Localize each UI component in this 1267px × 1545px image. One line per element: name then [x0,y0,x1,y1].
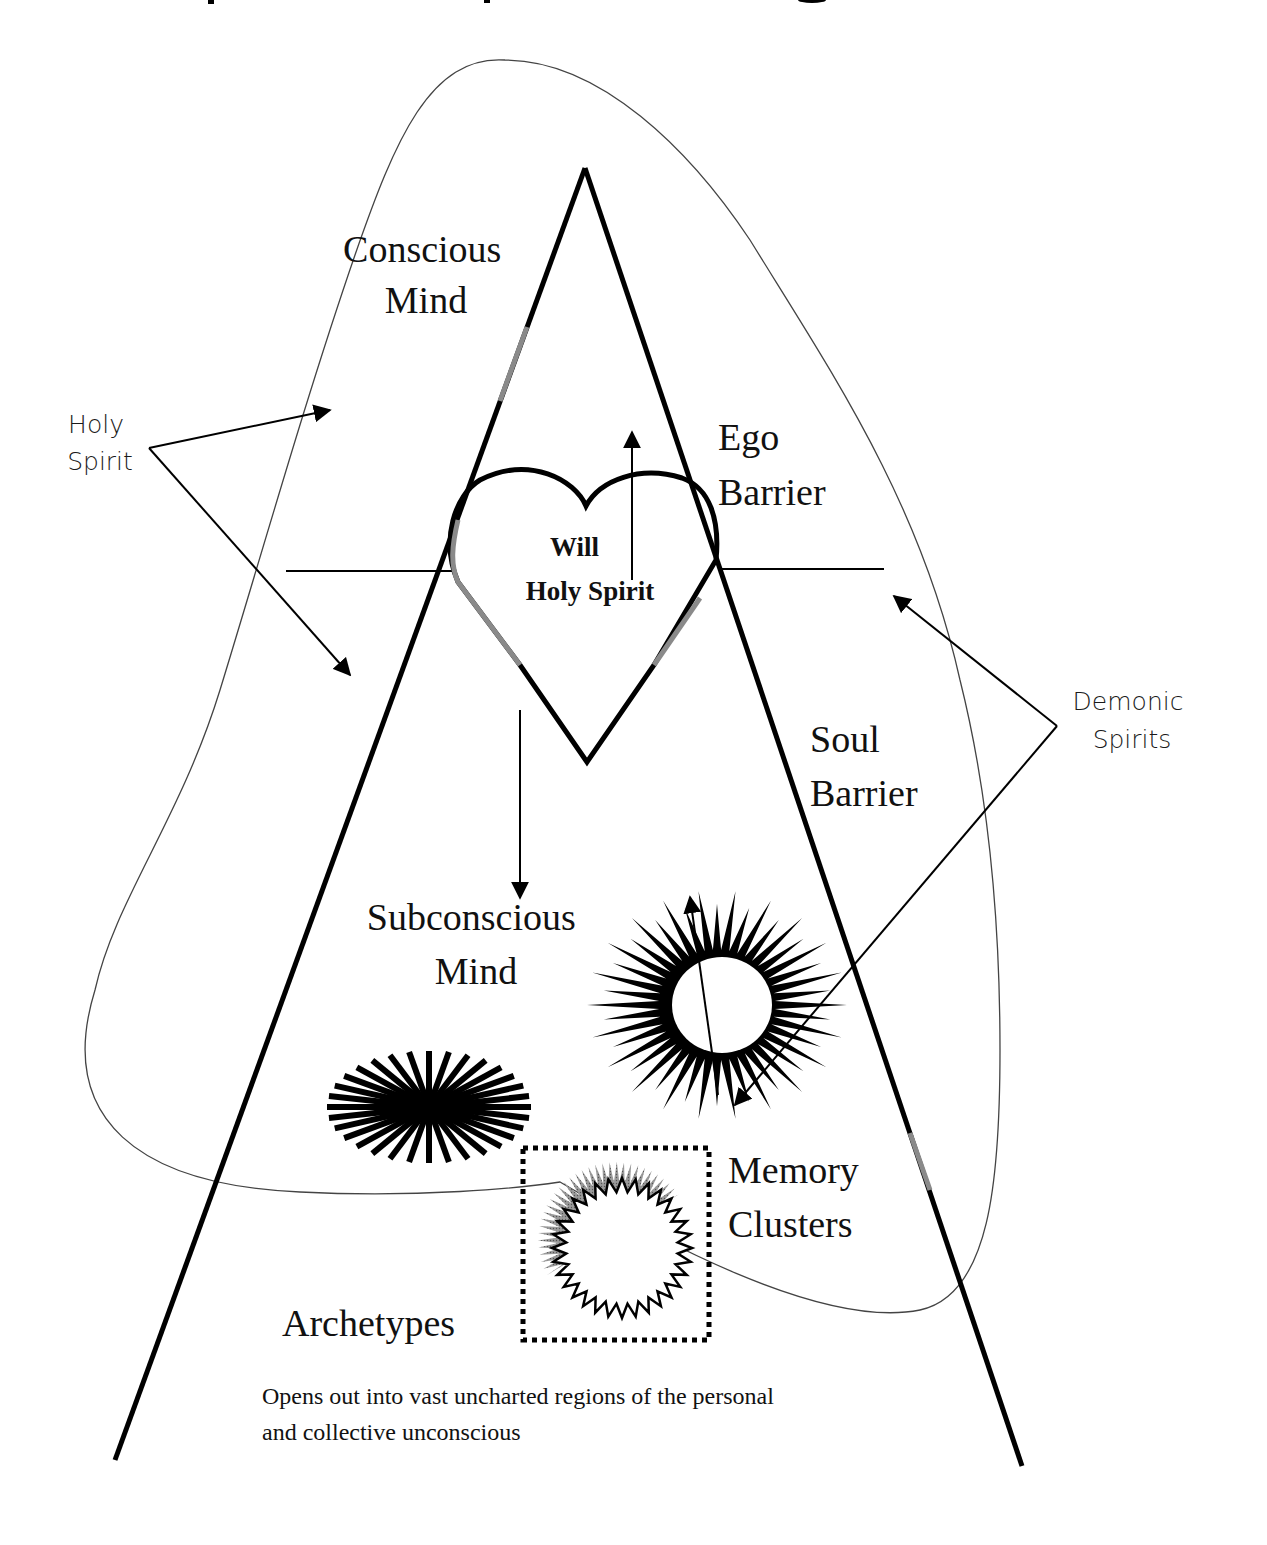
label-subconscious-mind: Subconscious Mind [367,896,586,992]
demonic-spirits-arrows [735,596,1057,1105]
heart-will [450,470,717,762]
label-holy-spirit: Holy Spirit [67,410,133,476]
label-demonic-spirits: Demonic Spirits [1073,687,1192,754]
label-conscious-mind: Conscious Mind [343,228,511,321]
psyche-diagram: Conscious Mind Holy Spirit Ego Barrier W… [0,0,1267,1545]
caption-unconscious: Opens out into vast uncharted regions of… [262,1383,780,1445]
label-memory-clusters: Memory Clusters [728,1149,868,1245]
label-heart: Will Holy Spirit [526,532,654,606]
label-soul-barrier: Soul Barrier [810,718,918,814]
zigzag-ring [538,1162,692,1318]
label-ego-barrier: Ego Barrier [718,416,826,513]
label-archetypes: Archetypes [282,1302,455,1344]
title-fragment [208,0,826,4]
holy-spirit-arrows [149,410,350,675]
spirit-realm-outline [85,60,1000,1313]
archetype-star [327,1051,531,1163]
